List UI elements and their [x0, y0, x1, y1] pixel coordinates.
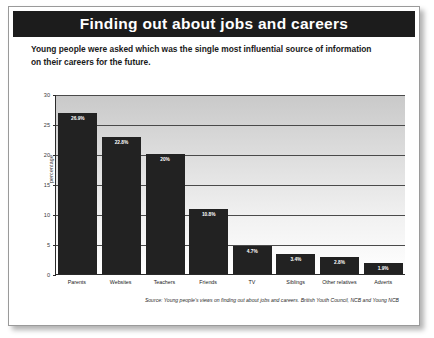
bar-value-label: 3.4% — [276, 257, 315, 262]
bar-slot: 22.8% — [102, 95, 141, 274]
x-tick-label: Parents — [57, 279, 96, 285]
bar-slot: 10.8% — [189, 95, 228, 274]
bar-slot: 4.7% — [233, 95, 272, 274]
bar-value-label: 2.8% — [320, 260, 359, 265]
bar-value-label: 26.9% — [58, 116, 97, 121]
bar-slot: 1.9% — [364, 95, 403, 274]
bar-value-label: 22.8% — [102, 140, 141, 145]
subtitle-line-1: Young people were asked which was the si… — [31, 43, 401, 56]
bar-slot: 26.9% — [58, 95, 97, 274]
x-tick-label: Websites — [101, 279, 140, 285]
bar[interactable]: 1.9% — [364, 263, 403, 274]
y-tick-label: 20 — [44, 152, 50, 158]
bar-slot: 2.8% — [320, 95, 359, 274]
x-tick-label: Friends — [189, 279, 228, 285]
bar-series: 26.9%22.8%20%10.8%4.7%3.4%2.8%1.9% — [56, 95, 405, 274]
x-tick-label: Adverts — [364, 279, 403, 285]
bar[interactable]: 22.8% — [102, 137, 141, 274]
y-axis-tick-labels: 051015202530 — [35, 95, 53, 275]
bar-value-label: 1.9% — [364, 266, 403, 271]
chart-plot-region: percentage 051015202530 26.9%22.8%20%10.… — [23, 95, 405, 293]
y-tick-label: 15 — [44, 182, 50, 188]
bar[interactable]: 10.8% — [189, 209, 228, 274]
x-tick-label: Other relatives — [320, 279, 359, 285]
bar-value-label: 10.8% — [189, 212, 228, 217]
page-title: Finding out about jobs and careers — [80, 15, 349, 33]
y-tick-mark — [53, 275, 56, 276]
plot-area: 26.9%22.8%20%10.8%4.7%3.4%2.8%1.9% — [55, 95, 405, 275]
x-axis-tick-labels: ParentsWebsitesTeachersFriendsTVSiblings… — [55, 279, 405, 285]
source-note: Source: Young people's views on finding … — [145, 297, 399, 303]
bar-slot: 20% — [146, 95, 185, 274]
y-tick-label: 30 — [44, 92, 50, 98]
y-tick-label: 25 — [44, 122, 50, 128]
x-tick-label: TV — [232, 279, 271, 285]
chart-subtitle: Young people were asked which was the si… — [31, 43, 401, 69]
chart-title-banner: Finding out about jobs and careers — [13, 11, 415, 37]
bar[interactable]: 20% — [146, 154, 185, 274]
y-tick-label: 10 — [44, 212, 50, 218]
bar-slot: 3.4% — [276, 95, 315, 274]
bar[interactable]: 3.4% — [276, 254, 315, 274]
bar[interactable]: 2.8% — [320, 257, 359, 274]
bar[interactable]: 4.7% — [233, 246, 272, 274]
bar[interactable]: 26.9% — [58, 113, 97, 274]
x-tick-label: Siblings — [276, 279, 315, 285]
x-tick-label: Teachers — [145, 279, 184, 285]
bar-value-label: 20% — [146, 157, 185, 162]
subtitle-line-2: on their careers for the future. — [31, 56, 401, 69]
y-tick-label: 0 — [47, 272, 50, 278]
bar-value-label: 4.7% — [233, 249, 272, 254]
y-tick-label: 5 — [47, 242, 50, 248]
chart-figure: Finding out about jobs and careers Young… — [8, 6, 420, 326]
